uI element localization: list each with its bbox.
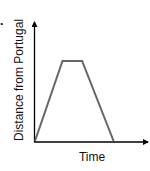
distance-line bbox=[35, 61, 114, 141]
x-axis-label: Time bbox=[79, 150, 106, 164]
y-axis-label: Distance from Portugal bbox=[12, 19, 26, 141]
distance-time-chart: Distance from Portugal Time bbox=[0, 0, 150, 171]
